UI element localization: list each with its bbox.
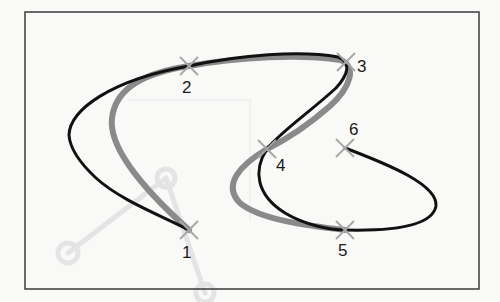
- point-label-1: 1: [182, 243, 191, 262]
- ghost-line-right: [166, 178, 205, 293]
- diagram-svg: 1 2 3 4 5 6: [0, 0, 500, 302]
- point-label-2: 2: [182, 78, 191, 97]
- point-label-4: 4: [276, 156, 285, 175]
- point-label-6: 6: [349, 120, 358, 139]
- gray-curve: [112, 57, 350, 230]
- diagram-frame: [25, 12, 479, 289]
- ghost-background-figure: [58, 100, 250, 302]
- black-curve: [69, 54, 436, 230]
- point-label-3: 3: [357, 57, 366, 76]
- diagram-canvas: 1 2 3 4 5 6: [0, 0, 500, 302]
- marker-6: [336, 139, 354, 157]
- point-label-5: 5: [338, 241, 347, 260]
